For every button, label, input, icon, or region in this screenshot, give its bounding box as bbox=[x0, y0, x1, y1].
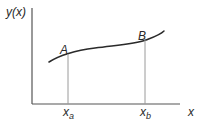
x-axis-label: x bbox=[188, 106, 194, 118]
y-axis-label: y(x) bbox=[6, 6, 26, 18]
point-b-label: B bbox=[138, 30, 146, 42]
x-b-tick-label: xb bbox=[140, 106, 151, 121]
diagram-canvas: y(x) A B xa xb x bbox=[0, 0, 207, 121]
x-a-tick-label: xa bbox=[63, 106, 74, 121]
x-a-subscript: a bbox=[69, 111, 74, 121]
point-a-label: A bbox=[60, 44, 68, 56]
x-b-subscript: b bbox=[146, 111, 151, 121]
diagram-svg bbox=[0, 0, 207, 121]
